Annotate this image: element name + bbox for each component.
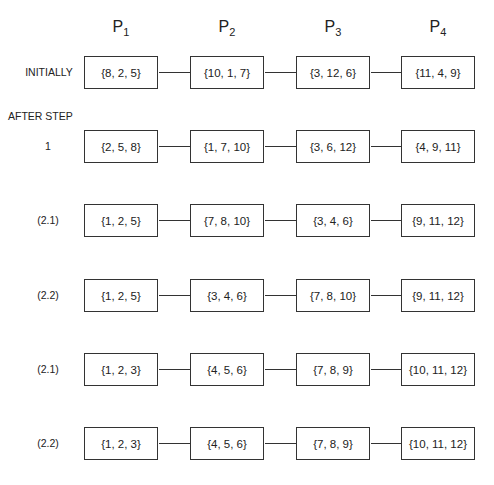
- interconnect-line: [159, 443, 190, 444]
- element-set: {4, 5, 6}: [207, 438, 247, 450]
- element-set: {1, 7, 10}: [204, 141, 250, 153]
- element-set: {10, 11, 12}: [409, 438, 467, 450]
- element-set: {3, 4, 6}: [207, 290, 247, 302]
- processor-box-p2: {1, 7, 10}: [190, 130, 264, 163]
- interconnect-line: [371, 295, 401, 296]
- processor-box-p1: {1, 2, 5}: [84, 279, 158, 312]
- element-set: {8, 2, 5}: [101, 67, 141, 79]
- interconnect-line: [265, 220, 296, 221]
- processor-index: 1: [123, 26, 129, 38]
- interconnect-line: [265, 295, 296, 296]
- element-set: {7, 8, 9}: [313, 438, 353, 450]
- processor-box-p3: {7, 8, 9}: [296, 353, 370, 386]
- processor-box-p4: {9, 11, 12}: [401, 204, 475, 237]
- step-label: (2.1): [0, 363, 96, 375]
- element-set: {10, 1, 7}: [204, 67, 250, 79]
- processor-box-p1: {1, 2, 5}: [84, 204, 158, 237]
- element-set: {9, 11, 12}: [412, 215, 464, 227]
- interconnect-line: [159, 220, 190, 221]
- interconnect-line: [265, 443, 296, 444]
- processor-box-p2: {4, 5, 6}: [190, 353, 264, 386]
- processor-box-p2: {7, 8, 10}: [190, 204, 264, 237]
- step-label: 1: [0, 140, 96, 152]
- element-set: {2, 5, 8}: [101, 141, 141, 153]
- after-step-label: AFTER STEP: [8, 110, 98, 122]
- processor-index: 3: [335, 26, 341, 38]
- element-set: {1, 2, 5}: [101, 290, 141, 302]
- interconnect-line: [371, 72, 401, 73]
- processor-letter: P: [113, 18, 124, 35]
- processor-box-p1: {2, 5, 8}: [84, 130, 158, 163]
- processor-box-p3: {7, 8, 9}: [296, 427, 370, 460]
- element-set: {11, 4, 9}: [415, 67, 460, 79]
- element-set: {1, 2, 5}: [101, 215, 141, 227]
- element-set: {4, 5, 6}: [207, 364, 247, 376]
- element-set: {9, 11, 12}: [412, 290, 464, 302]
- processor-box-p4: {9, 11, 12}: [401, 279, 475, 312]
- interconnect-line: [371, 369, 401, 370]
- processor-box-p2: {10, 1, 7}: [190, 56, 264, 89]
- processor-box-p3: {3, 12, 6}: [296, 56, 370, 89]
- element-set: {10, 11, 12}: [409, 364, 467, 376]
- processor-box-p1: {1, 2, 3}: [84, 427, 158, 460]
- processor-box-p4: {10, 11, 12}: [401, 353, 475, 386]
- step-label: (2.2): [0, 437, 96, 449]
- interconnect-line: [159, 369, 190, 370]
- interconnect-line: [371, 443, 401, 444]
- interconnect-line: [265, 72, 296, 73]
- interconnect-line: [159, 146, 190, 147]
- element-set: {1, 2, 3}: [101, 438, 141, 450]
- processor-header-4: P4: [401, 18, 475, 38]
- processor-header-2: P2: [190, 18, 264, 38]
- processor-box-p4: {4, 9, 11}: [401, 130, 475, 163]
- interconnect-line: [265, 146, 296, 147]
- processor-letter: P: [430, 18, 441, 35]
- interconnect-line: [159, 295, 190, 296]
- element-set: {4, 9, 11}: [415, 141, 460, 153]
- processor-header-1: P1: [84, 18, 158, 38]
- processor-box-p2: {4, 5, 6}: [190, 427, 264, 460]
- processor-box-p2: {3, 4, 6}: [190, 279, 264, 312]
- processor-box-p3: {3, 4, 6}: [296, 204, 370, 237]
- processor-box-p1: {1, 2, 3}: [84, 353, 158, 386]
- element-set: {1, 2, 3}: [101, 364, 141, 376]
- processor-header-3: P3: [296, 18, 370, 38]
- interconnect-line: [371, 146, 401, 147]
- element-set: {7, 8, 10}: [204, 215, 250, 227]
- processor-box-p3: {3, 6, 12}: [296, 130, 370, 163]
- element-set: {3, 6, 12}: [310, 141, 356, 153]
- processor-letter: P: [219, 18, 230, 35]
- interconnect-line: [265, 369, 296, 370]
- processor-box-p4: {11, 4, 9}: [401, 56, 475, 89]
- interconnect-line: [371, 220, 401, 221]
- step-label: INITIALLY: [14, 66, 84, 78]
- processor-letter: P: [325, 18, 336, 35]
- interconnect-line: [159, 72, 190, 73]
- step-label: (2.2): [0, 289, 96, 301]
- processor-index: 4: [440, 26, 446, 38]
- element-set: {3, 4, 6}: [313, 215, 353, 227]
- step-label: (2.1): [0, 214, 96, 226]
- processor-index: 2: [229, 26, 235, 38]
- element-set: {3, 12, 6}: [310, 67, 356, 79]
- element-set: {7, 8, 9}: [313, 364, 353, 376]
- processor-box-p1: {8, 2, 5}: [84, 56, 158, 89]
- processor-box-p4: {10, 11, 12}: [401, 427, 475, 460]
- element-set: {7, 8, 10}: [310, 290, 356, 302]
- processor-box-p3: {7, 8, 10}: [296, 279, 370, 312]
